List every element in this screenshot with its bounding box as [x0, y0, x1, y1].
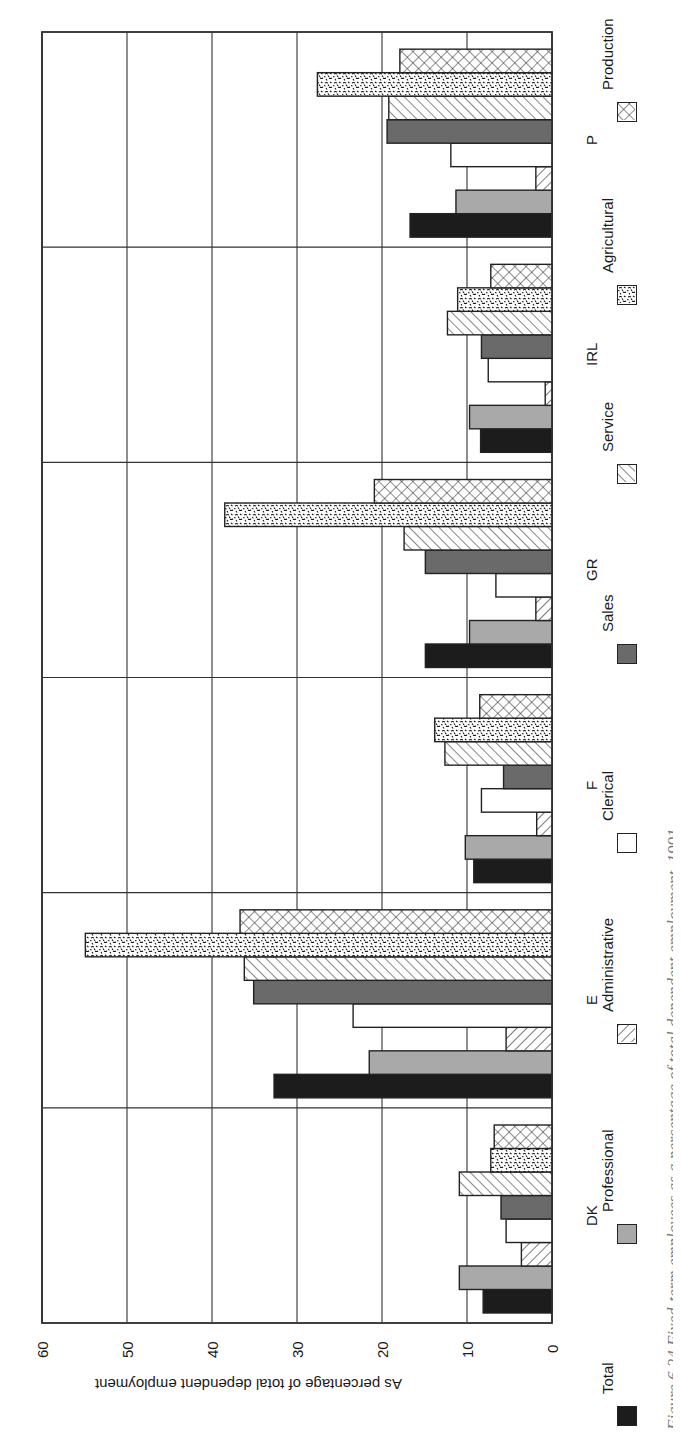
y-tick-label: 0 — [544, 1345, 561, 1353]
legend-swatch-service — [617, 464, 637, 484]
bar-production-f — [480, 695, 552, 719]
legend-label-clerical: Clerical — [599, 771, 616, 821]
legend-label-production: Production — [599, 18, 616, 90]
bar-sales-f — [504, 765, 552, 789]
bar-agricultural-p — [317, 73, 552, 97]
bar-production-dk — [494, 1125, 552, 1149]
legend-label-administrative: Administrative — [599, 918, 616, 1012]
y-tick-label: 60 — [34, 1341, 51, 1358]
plot-area — [42, 32, 552, 1323]
bar-total-p — [410, 214, 552, 238]
y-axis-title: As percentage of total dependent employm… — [95, 1376, 402, 1393]
bar-chart — [0, 0, 681, 1444]
bar-administrative-irl — [545, 382, 552, 406]
legend-swatch-administrative — [617, 1024, 637, 1044]
bar-total-dk — [483, 1290, 552, 1314]
category-label-dk: DK — [583, 1205, 600, 1226]
bar-service-gr — [404, 527, 552, 551]
bar-total-irl — [481, 429, 552, 453]
bar-service-irl — [447, 311, 552, 335]
bar-professional-p — [456, 190, 552, 214]
bar-administrative-dk — [521, 1243, 552, 1267]
bar-service-p — [389, 96, 552, 120]
bar-professional-irl — [470, 405, 552, 429]
y-tick-label: 20 — [374, 1341, 391, 1358]
legend-swatch-professional — [617, 1224, 637, 1244]
bar-clerical-f — [481, 789, 552, 813]
bar-production-irl — [491, 264, 552, 288]
bar-agricultural-e — [85, 933, 552, 957]
bar-sales-irl — [481, 335, 552, 359]
legend-label-service: Service — [599, 402, 616, 452]
bar-agricultural-gr — [225, 503, 552, 527]
bar-agricultural-dk — [491, 1149, 552, 1173]
bar-administrative-e — [506, 1027, 552, 1051]
bar-service-f — [445, 742, 552, 766]
category-label-irl: IRL — [583, 343, 600, 366]
legend-label-agricultural: Agricultural — [599, 198, 616, 273]
bar-professional-e — [369, 1051, 552, 1075]
bar-service-e — [244, 957, 552, 981]
bar-production-p — [400, 49, 552, 73]
bar-administrative-gr — [536, 597, 552, 621]
category-label-gr: GR — [583, 559, 600, 582]
bar-clerical-irl — [488, 358, 552, 382]
bar-total-f — [474, 859, 552, 883]
bar-clerical-e — [353, 1004, 552, 1027]
bar-sales-e — [254, 980, 552, 1004]
legend-swatch-sales — [617, 644, 637, 664]
legend-swatch-production — [617, 102, 637, 122]
category-label-p: P — [583, 135, 600, 145]
bar-sales-gr — [425, 550, 552, 574]
bar-agricultural-irl — [458, 288, 552, 312]
category-label-e: E — [583, 995, 600, 1005]
y-tick-label: 50 — [119, 1341, 136, 1358]
legend-swatch-total — [617, 1406, 637, 1426]
bar-clerical-gr — [496, 574, 552, 598]
category-label-f: F — [583, 780, 600, 789]
bar-total-e — [274, 1074, 552, 1098]
bar-sales-p — [387, 120, 552, 143]
bar-production-gr — [374, 480, 552, 504]
y-tick-label: 30 — [289, 1341, 306, 1358]
legend-label-total: Total — [599, 1362, 616, 1394]
bar-clerical-p — [451, 143, 552, 167]
bar-production-e — [240, 910, 552, 934]
bar-clerical-dk — [506, 1219, 552, 1243]
bar-professional-f — [465, 836, 552, 860]
legend-swatch-clerical — [617, 833, 637, 853]
bar-total-gr — [425, 644, 552, 668]
y-tick-label: 40 — [204, 1341, 221, 1358]
bar-administrative-p — [536, 167, 552, 191]
bar-professional-dk — [459, 1266, 552, 1290]
legend-label-professional: Professional — [599, 1129, 616, 1212]
legend-swatch-agricultural — [617, 285, 637, 305]
bar-sales-dk — [501, 1196, 552, 1220]
legend-label-sales: Sales — [599, 594, 616, 632]
y-tick-label: 10 — [459, 1341, 476, 1358]
bar-agricultural-f — [435, 718, 552, 742]
bar-service-dk — [459, 1172, 552, 1196]
bar-administrative-f — [537, 812, 552, 836]
bar-professional-gr — [470, 621, 552, 645]
